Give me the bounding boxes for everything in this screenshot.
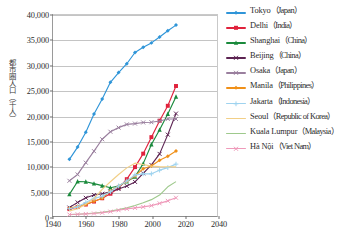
legend-item-h-n-i[interactable]: Hà Nội（Viet Nam）	[226, 142, 341, 154]
x-tick-mark	[86, 216, 87, 219]
x-tick-mark	[219, 216, 220, 219]
series-shanghai	[67, 94, 178, 196]
legend-swatch-icon	[226, 113, 246, 124]
x-tick-label: 1960	[78, 220, 94, 229]
y-tick-label: 10,000	[27, 163, 49, 172]
legend-item-delhi[interactable]: Delhi（India）	[226, 21, 341, 33]
x-tick-mark	[152, 216, 153, 219]
y-tick-label: 5,000	[31, 188, 49, 197]
legend-swatch-icon	[226, 7, 246, 18]
x-tick-label: 2000	[144, 220, 160, 229]
series-tokyo	[67, 23, 178, 161]
legend: Tokyo（Japan）Delhi（India）Shanghai（China）B…	[226, 6, 341, 157]
legend-label: Shanghai（China）	[250, 36, 312, 45]
legend-label: Osaka（Japan）	[250, 66, 301, 75]
y-tick-label: 20,000	[27, 112, 49, 121]
x-tick-mark	[185, 216, 186, 219]
x-tick-mark	[53, 216, 54, 219]
legend-swatch-icon	[226, 128, 246, 139]
legend-label: Seoul（Republic of Korea）	[250, 112, 335, 121]
series-delhi	[67, 84, 178, 211]
legend-label: Manila（Philippines）	[250, 81, 319, 90]
legend-swatch-icon	[226, 52, 246, 63]
y-tick-label: 30,000	[27, 61, 49, 70]
legend-item-jakarta[interactable]: Jakarta（Indonesia）	[226, 97, 341, 109]
series-layer	[53, 15, 217, 216]
legend-label: Delhi（India）	[250, 21, 297, 30]
legend-swatch-icon	[226, 67, 246, 78]
x-tick-label: 2020	[178, 220, 194, 229]
y-tick-label: 40,000	[27, 11, 49, 20]
legend-swatch-icon	[226, 37, 246, 48]
legend-swatch-icon	[226, 22, 246, 33]
chart-container: 都市圏人口（千人） 05,00010,00015,00020,00025,000…	[0, 0, 341, 248]
x-tick-label: 1980	[111, 220, 127, 229]
legend-swatch-icon	[226, 82, 246, 93]
y-tick-label: 35,000	[27, 36, 49, 45]
legend-item-shanghai[interactable]: Shanghai（China）	[226, 36, 341, 48]
legend-label: Jakarta（Indonesia）	[250, 97, 315, 106]
legend-label: Beijing（China）	[250, 51, 305, 60]
y-axis-title: 都市圏人口（千人）	[1, 58, 15, 121]
x-tick-label: 1940	[45, 220, 61, 229]
legend-swatch-icon	[226, 98, 246, 109]
legend-label: Tokyo（Japan）	[250, 6, 301, 15]
legend-item-osaka[interactable]: Osaka（Japan）	[226, 66, 341, 78]
legend-label: Hà Nội（Viet Nam）	[250, 142, 316, 151]
y-tick-label: 15,000	[27, 137, 49, 146]
legend-item-seoul[interactable]: Seoul（Republic of Korea）	[226, 112, 341, 124]
x-tick-label: 2040	[211, 220, 227, 229]
plot-area: 05,00010,00015,00020,00025,00030,00035,0…	[52, 14, 218, 217]
legend-item-tokyo[interactable]: Tokyo（Japan）	[226, 6, 341, 18]
series-manila	[67, 149, 178, 210]
legend-label: Kuala Lumpur（Malaysia）	[250, 127, 338, 136]
series-jakarta	[67, 162, 178, 211]
legend-item-beijing[interactable]: Beijing（China）	[226, 51, 341, 63]
legend-swatch-icon	[226, 143, 246, 154]
legend-item-kuala-lumpur[interactable]: Kuala Lumpur（Malaysia）	[226, 127, 341, 139]
y-tick-label: 25,000	[27, 87, 49, 96]
figure-caption	[0, 241, 341, 248]
x-tick-mark	[119, 216, 120, 219]
legend-item-manila[interactable]: Manila（Philippines）	[226, 81, 341, 93]
